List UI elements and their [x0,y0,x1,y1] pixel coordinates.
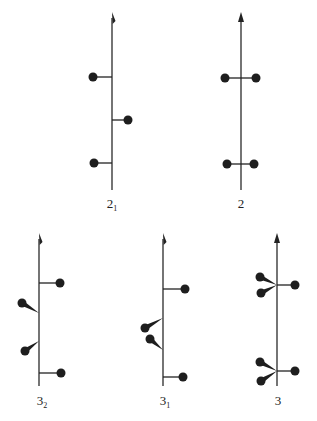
vertex-dot [256,273,265,282]
panel-label: 2 [238,196,245,211]
vertex-dot [291,367,300,376]
vertex-dot [257,377,266,386]
graph-panel-2-1: 21 [89,12,133,213]
graph-panel-2: 2 [221,12,261,211]
arrow-up-icon [238,12,244,22]
arrow-up-icon [274,233,280,243]
diagram-canvas: 21232313 [0,0,317,421]
panel-label: 3 [275,393,282,408]
vertex-dot [223,160,232,169]
vertex-dot [21,347,30,356]
vertex-dot [124,116,133,125]
vertex-dot [90,159,99,168]
arrow-up-icon [163,233,167,245]
vertex-dot [89,73,98,82]
graph-panel-3-1: 31 [141,233,190,410]
arrow-up-icon [39,233,43,245]
vertex-dot [57,369,66,378]
vertex-dot [221,74,230,83]
vertex-dot [256,358,265,367]
graph-panel-3-2: 32 [18,233,66,410]
vertex-dot [250,160,259,169]
vertex-dot [141,324,150,333]
vertex-dot [257,289,266,298]
vertex-dot [179,373,188,382]
graph-panel-3: 3 [256,233,300,408]
vertex-dot [252,74,261,83]
panel-label: 21 [107,196,118,213]
vertex-dot [56,279,65,288]
vertex-dot [146,335,155,344]
arrow-up-icon [112,12,116,24]
vertex-dot [18,299,27,308]
panel-label: 31 [160,393,171,410]
vertex-dot [181,285,190,294]
vertex-dot [291,281,300,290]
panel-label: 32 [37,393,48,410]
